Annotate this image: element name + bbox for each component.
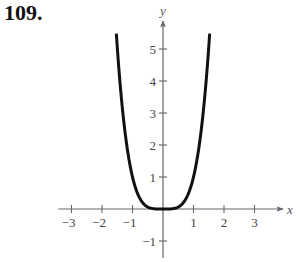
x-tick-label: 2 (221, 215, 228, 230)
x-tick-label: −1 (123, 215, 137, 230)
y-tick-label: 5 (150, 42, 157, 57)
x-tick-label: −3 (62, 215, 76, 230)
y-axis-label: y (158, 3, 166, 18)
y-tick-label: −1 (142, 234, 156, 249)
y-tick-label: 4 (150, 74, 157, 89)
x-tick-label: −2 (92, 215, 106, 230)
y-tick-label: 2 (150, 138, 157, 153)
x-tick-label: 1 (190, 215, 197, 230)
x-axis-label: x (286, 202, 293, 217)
y-tick-label: 1 (150, 170, 157, 185)
x-tick-label: 3 (251, 215, 258, 230)
function-graph: −3−2−1123−112345 x y (0, 0, 298, 262)
y-tick-label: 3 (150, 106, 157, 121)
